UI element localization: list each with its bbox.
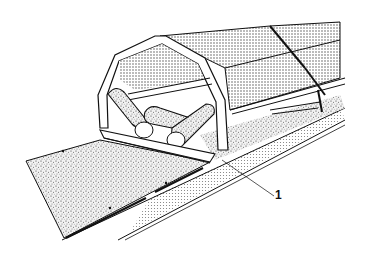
conveyor-illustration: [0, 0, 367, 258]
callout-label-1: 1: [275, 189, 282, 201]
roller-bracket-left: [135, 122, 153, 138]
